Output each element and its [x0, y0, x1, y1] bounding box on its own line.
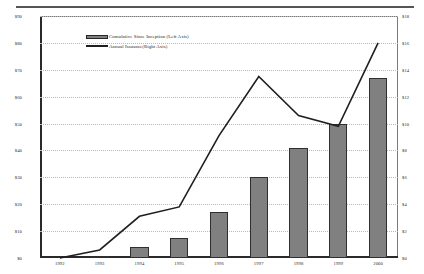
x-axis-tick: 1996 — [214, 261, 224, 266]
chart-container: $0$10$20$30$40$50$60$70$80$90 $0$2$4$6$8… — [0, 0, 424, 274]
y-axis-left-tick: $90 — [0, 14, 22, 19]
x-axis-tick: 1999 — [333, 261, 343, 266]
legend-bar-swatch-icon — [86, 35, 108, 39]
y-axis-left-tick: $50 — [0, 121, 22, 126]
legend-item-annual: Annual Issuance(Right Axis) — [86, 43, 189, 50]
y-axis-right-tick: $12 — [402, 94, 424, 99]
y-axis-right-tick: $2 — [402, 229, 424, 234]
x-axis-tick: 1995 — [174, 261, 184, 266]
legend-line-swatch-icon — [86, 45, 108, 48]
y-axis-right-tick: $16 — [402, 40, 424, 45]
y-axis-left-tick: $40 — [0, 148, 22, 153]
legend-item-cumulative: Cumulative Since Inception (Left Axis) — [86, 33, 189, 40]
chart-legend: Cumulative Since Inception (Left Axis) A… — [86, 33, 189, 52]
line-series — [40, 16, 398, 258]
legend-label-annual: Annual Issuance(Right Axis) — [109, 44, 167, 49]
y-axis-left-tick: $20 — [0, 202, 22, 207]
y-axis-right-tick: $14 — [402, 67, 424, 72]
x-axis-tick: 1997 — [254, 261, 264, 266]
x-axis-tick: 2000 — [373, 261, 383, 266]
x-axis-tick: 1998 — [294, 261, 304, 266]
y-axis-right-tick: $8 — [402, 148, 424, 153]
legend-label-cumulative: Cumulative Since Inception (Left Axis) — [109, 34, 189, 39]
y-axis-left-tick: $70 — [0, 67, 22, 72]
y-axis-left-tick: $0 — [0, 256, 22, 261]
x-axis-tick: 1993 — [95, 261, 105, 266]
y-axis-right-tick: $0 — [402, 256, 424, 261]
plot-area — [40, 16, 398, 258]
header-divider — [16, 6, 414, 8]
y-axis-right-tick: $10 — [402, 121, 424, 126]
y-axis-left-tick: $10 — [0, 229, 22, 234]
x-axis-tick: 1992 — [55, 261, 65, 266]
x-axis-tick: 1994 — [135, 261, 145, 266]
y-axis-right-tick: $4 — [402, 202, 424, 207]
y-axis-left-tick: $60 — [0, 94, 22, 99]
y-axis-right-tick: $6 — [402, 175, 424, 180]
y-axis-left-tick: $30 — [0, 175, 22, 180]
y-axis-left-tick: $80 — [0, 40, 22, 45]
y-axis-right-tick: $18 — [402, 14, 424, 19]
